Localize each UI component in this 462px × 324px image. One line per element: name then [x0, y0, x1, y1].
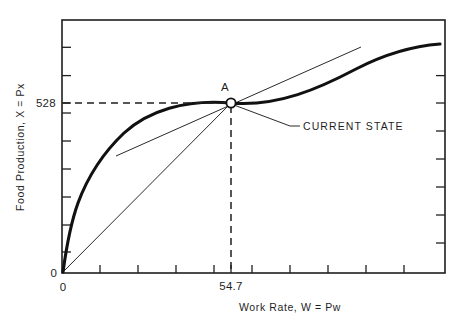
y-axis-title: Food Production, X = Px	[14, 83, 26, 211]
x-tick-label-547: 54.7	[219, 280, 243, 292]
point-a-marker	[226, 98, 235, 107]
x-axis-title: Work Rate, W = Pw	[239, 301, 341, 313]
chart-canvas: A CURRENT STATE 528 0 0 54.7 Work Rate, …	[0, 0, 462, 324]
y-tick-label-528: 528	[36, 97, 56, 109]
point-a-label: A	[221, 81, 229, 93]
production-function-chart: A CURRENT STATE 528 0 0 54.7 Work Rate, …	[0, 0, 462, 324]
current-state-annotation: CURRENT STATE	[303, 120, 404, 132]
chart-background	[0, 0, 462, 324]
y-origin-label: 0	[51, 267, 57, 279]
x-origin-label: 0	[60, 281, 66, 293]
